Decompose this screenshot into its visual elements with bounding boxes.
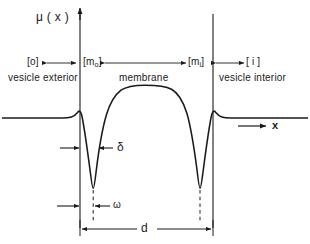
membrane-outer-tag-close: ]: [99, 56, 102, 67]
interior-tag-label: [ i ]: [246, 57, 260, 67]
membrane-label: membrane: [119, 73, 168, 83]
vesicle-interior-label: vesicle interior: [219, 73, 286, 83]
delta-label: δ: [117, 141, 124, 153]
figure-canvas: [0, 0, 310, 244]
mu-axis-label: μ ( x ): [36, 11, 69, 23]
membrane-inner-tag-label: [mi]: [188, 57, 204, 68]
membrane-outer-tag-label: [mo]: [83, 57, 102, 68]
potential-curve: [2, 85, 308, 188]
omega-label: ω: [113, 200, 121, 210]
membrane-inner-tag-close: ]: [201, 56, 204, 67]
membrane-inner-tag-main: [m: [188, 56, 200, 67]
membrane-outer-tag-main: [m: [83, 56, 95, 67]
vesicle-exterior-label: vesicle exterior: [8, 73, 78, 83]
thickness-label: d: [141, 222, 148, 234]
exterior-tag-label: [o]: [27, 57, 39, 67]
x-axis-label: x: [272, 120, 278, 131]
membrane-potential-figure: μ ( x ) [o] [mo] [mi] [ i ] vesicle exte…: [0, 0, 310, 244]
